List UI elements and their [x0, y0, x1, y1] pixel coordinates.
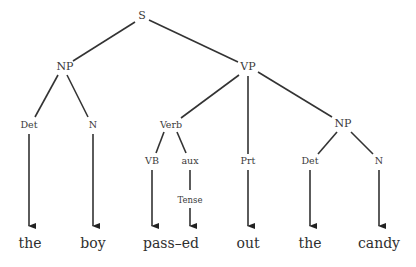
- edge-s-np: [73, 22, 135, 61]
- word-candy: candy: [358, 235, 400, 251]
- node-n: N: [89, 119, 97, 130]
- node-np: NP: [56, 60, 74, 73]
- node-tense: Tense: [178, 195, 203, 205]
- word-boy: boy: [80, 235, 105, 251]
- edge-np-det: [35, 75, 58, 117]
- word-the: the: [19, 235, 42, 251]
- edge-verb-aux: [177, 132, 186, 153]
- edge-vp-verb: [181, 75, 239, 118]
- word-pass-ed: pass–ed: [143, 235, 199, 251]
- node-prt: Prt: [241, 155, 256, 166]
- parse-tree-diagram: S NP VP Det N Verb NP VB aux Tense Prt D…: [0, 0, 416, 267]
- edge-np2-n: [351, 132, 373, 154]
- node-np2: NP: [334, 117, 352, 130]
- node-aux: aux: [181, 155, 199, 166]
- node-vp: VP: [239, 60, 256, 73]
- edge-s-vp: [149, 20, 238, 62]
- edge-verb-vb: [156, 132, 164, 153]
- node-n2: N: [375, 155, 383, 166]
- node-s: S: [138, 9, 146, 22]
- edge-vp-np2: [258, 72, 332, 117]
- word-out: out: [236, 235, 259, 251]
- edge-np2-det: [318, 132, 337, 154]
- node-det: Det: [20, 119, 37, 130]
- word-the-2: the: [299, 235, 322, 251]
- edge-np-n: [67, 75, 88, 117]
- node-det2: Det: [301, 155, 318, 166]
- node-verb: Verb: [159, 119, 182, 130]
- node-vb: VB: [144, 155, 159, 166]
